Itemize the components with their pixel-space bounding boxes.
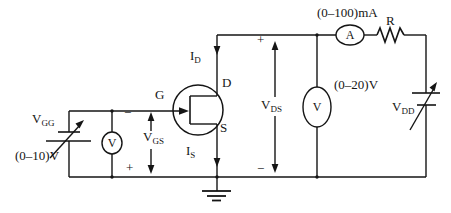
vgg-label: VGG: [32, 112, 54, 130]
vds-label: VDS: [261, 98, 282, 116]
resistor-symbol: [377, 28, 404, 42]
vgs-label: VGS: [143, 130, 164, 148]
source-terminal-label: S: [220, 121, 227, 135]
gate-voltmeter-letter: V: [102, 136, 122, 150]
circuit-wiring: [0, 0, 451, 213]
junction-dots: [110, 33, 318, 178]
circuit-diagram: VGG (0–10)V V − VGS + G D S ID IS + VDS …: [0, 0, 451, 213]
vds-minus-sign: −: [257, 162, 264, 176]
resistor-label: R: [386, 14, 395, 28]
vds-plus-sign: +: [257, 33, 264, 47]
ground-icon: [202, 177, 231, 201]
drain-voltmeter-letter: V: [307, 100, 327, 114]
ammeter-range-label: (0–100)mA: [317, 6, 378, 20]
drain-terminal-label: D: [222, 76, 231, 90]
drain-current-arrow: [214, 46, 221, 55]
drain-voltmeter-range-label: (0–20)V: [334, 78, 378, 92]
vgg-range-label: (0–10)V: [15, 149, 59, 163]
ammeter-letter: A: [340, 28, 360, 42]
source-current-label: IS: [186, 144, 195, 162]
vgs-minus-sign: −: [124, 106, 131, 120]
vgs-plus-sign: +: [126, 161, 133, 175]
drain-current-label: ID: [190, 49, 201, 67]
vdd-variable-source: [410, 82, 440, 130]
source-current-arrow: [214, 158, 221, 167]
gate-terminal-label: G: [155, 88, 164, 102]
wire-lines: [69, 35, 426, 177]
vdd-label: VDD: [392, 100, 414, 118]
mosfet-symbol: [173, 85, 223, 135]
